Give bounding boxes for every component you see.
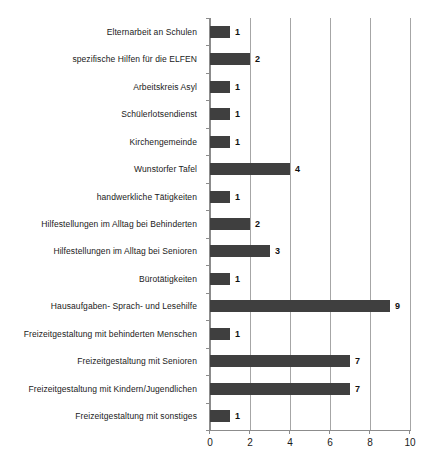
category-label-cell: Schülerlotsendienst — [0, 100, 203, 127]
y-axis-tick — [206, 128, 210, 129]
category-label-cell: Hausaufgaben- Sprach- und Lesehilfe — [0, 293, 203, 320]
bar-value-label: 9 — [395, 301, 400, 311]
category-label: Kirchengemeinde — [130, 137, 197, 147]
y-axis-tick — [206, 45, 210, 46]
bar — [210, 273, 230, 285]
bar-row: 1 — [210, 183, 410, 210]
bar — [210, 163, 290, 175]
category-label-cell: Hilfestellungen im Alltag bei Senioren — [0, 238, 203, 265]
y-axis-tick — [206, 375, 210, 376]
bar — [210, 355, 350, 367]
bar-value-label: 1 — [235, 274, 240, 284]
bar-row: 3 — [210, 238, 410, 265]
category-label: Freizeitgestaltung mit Senioren — [77, 356, 197, 366]
bar-row: 9 — [210, 293, 410, 320]
bar-row: 2 — [210, 210, 410, 237]
category-label-cell: handwerkliche Tätigkeiten — [0, 183, 203, 210]
x-axis-tick-label: 0 — [207, 437, 213, 448]
y-axis-tick — [206, 210, 210, 211]
bar-row: 1 — [210, 265, 410, 292]
x-axis-tick — [249, 430, 250, 434]
bar-row: 4 — [210, 155, 410, 182]
category-label-cell: Bürotätigkeiten — [0, 265, 203, 292]
y-axis-tick — [206, 238, 210, 239]
category-label-cell: Freizeitgestaltung mit sonstiges — [0, 403, 203, 430]
bar-value-label: 2 — [255, 54, 260, 64]
y-axis-tick — [206, 293, 210, 294]
bar-value-label: 4 — [295, 164, 300, 174]
category-label-cell: Freizeitgestaltung mit behinderten Mensc… — [0, 320, 203, 347]
bar-row: 1 — [210, 403, 410, 430]
bar-value-label: 1 — [235, 411, 240, 421]
bar — [210, 410, 230, 422]
category-label-cell: Hilfestellungen im Alltag bei Behinderte… — [0, 210, 203, 237]
x-axis-tick-label: 6 — [327, 437, 333, 448]
bar — [210, 108, 230, 120]
category-label-cell: Arbeitskreis Asyl — [0, 73, 203, 100]
x-axis — [209, 430, 411, 431]
bar — [210, 245, 270, 257]
category-label: Bürotätigkeiten — [139, 274, 197, 284]
category-label-cell: Wunstorfer Tafel — [0, 155, 203, 182]
x-axis-tick-label: 4 — [287, 437, 293, 448]
x-axis-tick — [369, 430, 370, 434]
plot-area: 121114123191771 — [210, 18, 410, 430]
y-axis-tick — [206, 320, 210, 321]
y-axis-tick — [206, 155, 210, 156]
category-label: Freizeitgestaltung mit Kindern/Jugendlic… — [28, 384, 197, 394]
x-axis-tick-label: 8 — [367, 437, 373, 448]
bar-row: 1 — [210, 100, 410, 127]
category-label: Hilfestellungen im Alltag bei Behinderte… — [41, 219, 197, 229]
x-axis-tick-label: 2 — [247, 437, 253, 448]
category-label-cell: spezifische Hilfen für die ELFEN — [0, 45, 203, 72]
bar-value-label: 3 — [275, 246, 280, 256]
bar — [210, 136, 230, 148]
bar-row: 1 — [210, 18, 410, 45]
bar-row: 7 — [210, 375, 410, 402]
bar-value-label: 1 — [235, 82, 240, 92]
chart-title — [0, 0, 422, 2]
category-label-cell: Kirchengemeinde — [0, 128, 203, 155]
bar-value-label: 7 — [355, 356, 360, 366]
bar-chart: Elternarbeit an Schulenspezifische Hilfe… — [0, 0, 422, 464]
y-axis-tick — [206, 100, 210, 101]
y-axis-tick — [206, 348, 210, 349]
bar-row: 7 — [210, 348, 410, 375]
category-label: Arbeitskreis Asyl — [133, 82, 197, 92]
bar — [210, 26, 230, 38]
bar-value-label: 2 — [255, 219, 260, 229]
category-label: Wunstorfer Tafel — [134, 164, 197, 174]
category-label-cell: Freizeitgestaltung mit Kindern/Jugendlic… — [0, 375, 203, 402]
bar-value-label: 1 — [235, 27, 240, 37]
bar-value-label: 1 — [235, 192, 240, 202]
bar — [210, 300, 390, 312]
bars-container: 121114123191771 — [210, 18, 410, 430]
gridline — [410, 18, 411, 430]
bar-value-label: 1 — [235, 109, 240, 119]
bar — [210, 191, 230, 203]
category-label: Freizeitgestaltung mit sonstiges — [75, 411, 197, 421]
category-axis: Elternarbeit an Schulenspezifische Hilfe… — [0, 18, 203, 430]
y-axis — [209, 18, 210, 430]
category-label: Elternarbeit an Schulen — [107, 27, 197, 37]
bar-row: 1 — [210, 73, 410, 100]
bar — [210, 218, 250, 230]
category-label: spezifische Hilfen für die ELFEN — [72, 54, 197, 64]
bar-value-label: 1 — [235, 137, 240, 147]
bar-value-label: 1 — [235, 329, 240, 339]
bar-row: 2 — [210, 45, 410, 72]
bar-value-label: 7 — [355, 384, 360, 394]
bar-row: 1 — [210, 320, 410, 347]
y-axis-tick — [206, 183, 210, 184]
y-axis-tick — [206, 73, 210, 74]
category-label: Hausaufgaben- Sprach- und Lesehilfe — [51, 301, 197, 311]
category-label: handwerkliche Tätigkeiten — [97, 192, 197, 202]
x-axis-tick — [289, 430, 290, 434]
category-label-cell: Elternarbeit an Schulen — [0, 18, 203, 45]
y-axis-tick — [206, 430, 210, 431]
bar — [210, 328, 230, 340]
y-axis-tick — [206, 18, 210, 19]
category-label: Freizeitgestaltung mit behinderten Mensc… — [24, 329, 197, 339]
x-axis-tick — [409, 430, 410, 434]
bar — [210, 383, 350, 395]
